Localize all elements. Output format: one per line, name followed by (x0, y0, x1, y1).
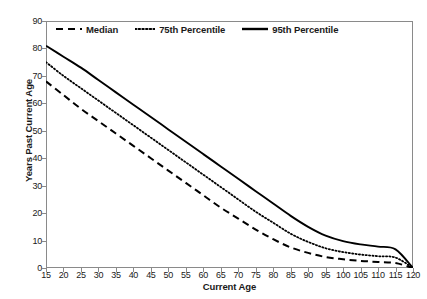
legend-swatch-dashed-icon (56, 25, 82, 33)
x-axis-tick-mark (273, 268, 274, 272)
x-axis-tick-mark (133, 268, 134, 272)
x-axis-tick-mark (46, 268, 47, 272)
y-axis-tick-label: 40 (4, 153, 42, 163)
y-axis-tick-label: 20 (4, 208, 42, 218)
x-axis-tick-mark (116, 268, 117, 272)
x-axis-tick-mark (326, 268, 327, 272)
legend-item-95th-percentile[interactable]: 95th Percentile (242, 24, 338, 35)
x-axis-tick-mark (361, 268, 362, 272)
legend-label: 95th Percentile (272, 24, 338, 35)
legend-swatch-dotted-icon (135, 25, 155, 33)
legend-swatch-solid-icon (242, 25, 268, 33)
x-axis-title: Current Age (46, 281, 413, 292)
x-axis-tick-mark (291, 268, 292, 272)
x-axis-tick-mark (98, 268, 99, 272)
y-axis-tick-label: 80 (4, 43, 42, 53)
x-axis-tick-mark (256, 268, 257, 272)
y-axis-tick-label: 50 (4, 126, 42, 136)
y-axis-tick-label: 90 (4, 16, 42, 26)
x-axis-tick-mark (151, 268, 152, 272)
x-axis-tick-mark (203, 268, 204, 272)
y-axis-tick-label: 70 (4, 71, 42, 81)
x-axis-tick-mark (81, 268, 82, 272)
legend-item-median[interactable]: Median (56, 24, 118, 35)
x-axis-tick-mark (396, 268, 397, 272)
y-axis-tick-label: 30 (4, 181, 42, 191)
chart-container: Years Past Current Age 01020304050607080… (0, 0, 427, 299)
series-line-95th-percentile (46, 46, 413, 268)
x-axis-tick-mark (378, 268, 379, 272)
x-axis-tick-mark (238, 268, 239, 272)
x-axis-tick-mark (343, 268, 344, 272)
x-axis-tick-mark (308, 268, 309, 272)
x-axis-tick-mark (221, 268, 222, 272)
legend-label: 75th Percentile (159, 24, 225, 35)
plot-lines (46, 21, 413, 268)
x-axis-tick-mark (168, 268, 169, 272)
y-axis-tick-label: 10 (4, 236, 42, 246)
legend-item-75th-percentile[interactable]: 75th Percentile (135, 24, 225, 35)
legend-label: Median (86, 24, 118, 35)
chart-legend: Median75th Percentile95th Percentile (56, 21, 338, 37)
y-axis-tick-label: 60 (4, 98, 42, 108)
x-axis-tick-mark (186, 268, 187, 272)
series-line-75th-percentile (46, 62, 413, 268)
x-axis-tick-mark (63, 268, 64, 272)
y-axis-tick-group: 0102030405060708090 (0, 0, 42, 299)
series-line-median (46, 81, 413, 268)
x-axis-tick-mark (413, 268, 414, 272)
